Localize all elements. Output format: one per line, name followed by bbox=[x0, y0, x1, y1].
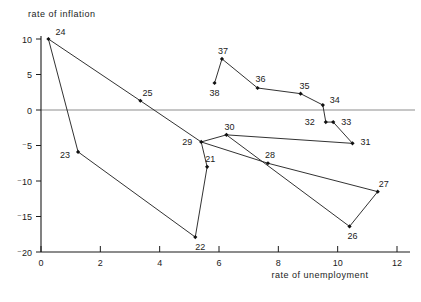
x-tick-label: 2 bbox=[98, 258, 103, 268]
data-point-label: 34 bbox=[330, 95, 340, 105]
series-polyline-group bbox=[48, 39, 377, 237]
y-axis-title: rate of inflation bbox=[28, 9, 96, 19]
y-tick-label: ⁻10 bbox=[17, 177, 32, 187]
x-tick-label: 12 bbox=[392, 258, 402, 268]
data-point-label: 30 bbox=[224, 122, 234, 132]
y-tick-label: ⁻20 bbox=[17, 248, 32, 258]
series-marker-group bbox=[46, 37, 380, 239]
x-tick-label: 10 bbox=[333, 258, 343, 268]
chart-canvas: rate of inflation 1050⁻5⁻10⁻15⁻20 024681… bbox=[0, 0, 421, 302]
data-point-marker bbox=[205, 165, 209, 169]
inflation-unemployment-scatter-chart: rate of inflation 1050⁻5⁻10⁻15⁻20 024681… bbox=[0, 0, 421, 302]
data-point-label: 24 bbox=[55, 27, 65, 37]
data-point-label: 26 bbox=[348, 231, 358, 241]
data-point-label: 23 bbox=[60, 150, 70, 160]
y-tick-label: ⁻15 bbox=[17, 212, 32, 222]
data-point-label: 29 bbox=[182, 137, 192, 147]
x-tick-label: 4 bbox=[157, 258, 162, 268]
y-tick-label: 5 bbox=[27, 70, 32, 80]
series-segment bbox=[226, 135, 349, 227]
data-point-label: 35 bbox=[300, 81, 310, 91]
series-segment bbox=[140, 101, 201, 142]
data-point-label: 31 bbox=[361, 137, 371, 147]
data-point-label: 36 bbox=[256, 74, 266, 84]
x-tick-label: 8 bbox=[276, 258, 281, 268]
data-point-label: 22 bbox=[195, 242, 205, 252]
y-tick-label: 10 bbox=[22, 35, 32, 45]
data-point-label: 32 bbox=[305, 117, 315, 127]
data-point-label: 25 bbox=[142, 88, 152, 98]
data-point-label: 21 bbox=[205, 154, 215, 164]
data-point-label: 28 bbox=[265, 150, 275, 160]
y-tick-label: ⁻5 bbox=[22, 141, 32, 151]
data-point-marker bbox=[321, 103, 325, 107]
data-point-marker bbox=[298, 92, 302, 96]
series-segment bbox=[350, 192, 378, 227]
x-tick-label: 6 bbox=[216, 258, 221, 268]
x-axis-ticks: 024681012 bbox=[38, 246, 402, 268]
x-tick-label: 0 bbox=[38, 258, 43, 268]
data-point-label: 27 bbox=[379, 179, 389, 189]
data-point-marker bbox=[324, 120, 328, 124]
series-polyline bbox=[48, 39, 352, 237]
data-point-label: 33 bbox=[341, 117, 351, 127]
x-axis-title: rate of unemployment bbox=[271, 270, 368, 280]
y-axis-ticks: 1050⁻5⁻10⁻15⁻20 bbox=[17, 35, 41, 258]
data-point-label: 38 bbox=[210, 88, 220, 98]
data-point-marker bbox=[212, 81, 216, 85]
data-point-label: 37 bbox=[218, 46, 228, 56]
y-tick-label: 0 bbox=[27, 106, 32, 116]
